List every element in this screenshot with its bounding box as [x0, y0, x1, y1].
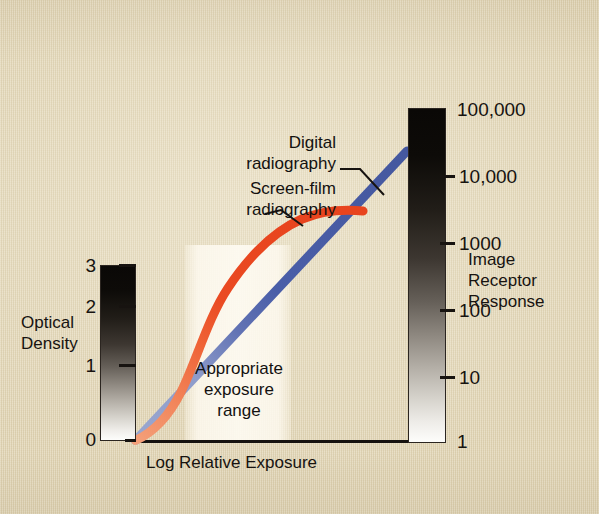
irr-tick-10 [440, 376, 455, 379]
digital-label-line-1: Digital [199, 132, 336, 153]
x-axis-line [135, 440, 446, 443]
image-receptor-axis-title: Image Receptor Response [468, 249, 545, 312]
optical-density-axis-title: Optical Density [21, 312, 78, 354]
screen-film-label-line-1: Screen-film [155, 178, 336, 199]
digital-label-leader-line [340, 169, 384, 195]
screen-film-radiography-label: Screen-film radiography [155, 178, 336, 220]
appropriate-exposure-range-label: Appropriate exposure range [178, 358, 300, 421]
plot-area: 3 2 1 0 100,000 10,000 1000 100 10 1 Opt… [0, 0, 599, 514]
characteristic-curve-figure: 3 2 1 0 100,000 10,000 1000 100 10 1 Opt… [0, 0, 599, 514]
x-axis-title: Log Relative Exposure [146, 452, 317, 473]
od-tick-0 [125, 439, 136, 442]
irr-tick-10000 [440, 175, 455, 178]
od-tick-label-2: 2 [78, 297, 96, 316]
od-tick-label-1: 1 [78, 356, 96, 375]
irr-tick-label-10: 10 [459, 368, 480, 387]
od-tick-2 [119, 305, 136, 308]
optical-density-gradient-bar [100, 265, 136, 441]
digital-radiography-label: Digital radiography [199, 132, 336, 174]
irr-tick-1000 [440, 242, 455, 245]
irr-tick-label-10000: 10,000 [459, 167, 517, 186]
irr-tick-100 [440, 309, 455, 312]
irr-tick-label-1: 1 [457, 432, 468, 451]
screen-film-label-line-2: radiography [155, 199, 336, 220]
image-receptor-title-line-3: Response [468, 291, 545, 312]
optical-density-title-line-1: Optical [21, 312, 78, 333]
digital-label-line-2: radiography [199, 153, 336, 174]
od-tick-label-0: 0 [78, 430, 96, 449]
image-receptor-title-line-1: Image [468, 249, 545, 270]
od-tick-label-3: 3 [78, 256, 96, 275]
irr-tick-label-100000: 100,000 [457, 100, 526, 119]
optical-density-title-line-2: Density [21, 333, 78, 354]
od-tick-3 [119, 264, 136, 267]
image-receptor-gradient-bar [408, 108, 446, 443]
image-receptor-title-line-2: Receptor [468, 270, 545, 291]
od-tick-1 [119, 364, 136, 367]
